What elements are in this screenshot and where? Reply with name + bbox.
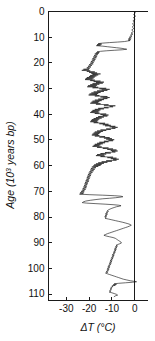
y-tick-label: 50 [33, 134, 45, 145]
y-tick-label: 80 [33, 211, 45, 222]
temperature-curve [80, 12, 137, 297]
x-tick-label: -20 [82, 303, 97, 314]
y-axis-tick-labels: 0102030405060708090100110 [28, 6, 45, 300]
y-tick-label: 40 [33, 109, 45, 120]
y-axis-tick-marks [49, 12, 53, 295]
y-tick-label: 10 [33, 32, 45, 43]
x-axis-tick-labels: -30-20-100 [59, 303, 138, 314]
y-tick-label: 30 [33, 83, 45, 94]
x-tick-label: 0 [132, 303, 138, 314]
y-tick-label: 20 [33, 57, 45, 68]
x-tick-label: -10 [105, 303, 120, 314]
y-tick-label: 100 [28, 263, 45, 274]
svg-text:Age (103 years bp): Age (103 years bp) [4, 121, 16, 209]
y-axis-title: Age (103 years bp) [4, 121, 16, 209]
y-tick-label: 90 [33, 237, 45, 248]
y-tick-label: 0 [39, 6, 45, 17]
y-axis-title-tail: years bp) [4, 121, 16, 168]
y-tick-label: 70 [33, 186, 45, 197]
y-tick-label: 110 [29, 288, 45, 299]
x-tick-label: -30 [59, 303, 74, 314]
temperature-record-figure: 0102030405060708090100110 -30-20-100 Age… [0, 0, 155, 341]
x-axis-title: ΔT (°C) [79, 321, 115, 333]
y-axis-title-main: Age (10 [4, 172, 16, 210]
x-axis-tick-marks [66, 297, 134, 301]
chart-canvas: 0102030405060708090100110 -30-20-100 Age… [0, 0, 155, 341]
y-tick-label: 60 [33, 160, 45, 171]
